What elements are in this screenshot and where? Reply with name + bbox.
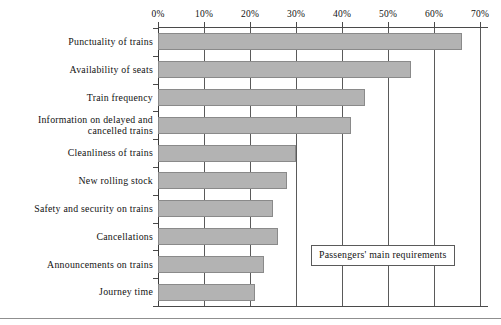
category-label: Announcements on trains (8, 259, 158, 271)
x-tick-label: 70% (471, 8, 489, 20)
x-tick-label: 40% (333, 8, 351, 20)
x-tick-label: 30% (287, 8, 305, 20)
gridline (480, 28, 481, 306)
category-label: Information on delayed and cancelled tra… (8, 114, 158, 137)
category-label: Cleanliness of trains (8, 147, 158, 159)
bar (158, 172, 287, 189)
x-axis-bottom-rule (158, 306, 488, 307)
y-tick-mark (153, 306, 158, 307)
x-tick-label: 60% (425, 8, 443, 20)
bar (158, 200, 273, 217)
category-label: Train frequency (8, 92, 158, 104)
category-label: Cancellations (8, 231, 158, 243)
bar (158, 284, 255, 301)
horizontal-bar-chart: 0%10%20%30%40%50%60%70% Punctuality of t… (0, 0, 501, 325)
category-label: Safety and security on trains (8, 203, 158, 215)
bar (158, 145, 296, 162)
bar (158, 61, 411, 78)
category-label: Journey time (8, 286, 158, 298)
x-tick-label: 20% (241, 8, 259, 20)
category-label: Availability of seats (8, 64, 158, 76)
bar (158, 33, 462, 50)
x-tick-label: 50% (379, 8, 397, 20)
category-label: Punctuality of trains (8, 36, 158, 48)
bottom-separator-rule (0, 318, 501, 319)
bar (158, 117, 351, 134)
bar (158, 228, 278, 245)
x-tick-label: 10% (195, 8, 213, 20)
legend-label-box: Passengers' main requirements (311, 245, 455, 266)
bar (158, 89, 365, 106)
bar (158, 256, 264, 273)
category-label: New rolling stock (8, 175, 158, 187)
y-axis-category-labels: Punctuality of trainsAvailability of sea… (0, 0, 158, 325)
